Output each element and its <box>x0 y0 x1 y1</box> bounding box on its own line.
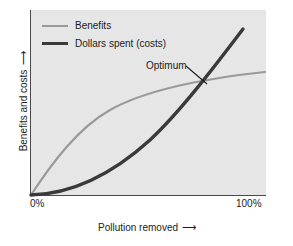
legend-swatch-benefits <box>42 25 68 27</box>
benefits-curve <box>31 72 265 195</box>
x-axis-tick-100: 100% <box>236 198 262 209</box>
legend-swatch-costs <box>42 42 68 45</box>
y-axis-title-text: Benefits and costs <box>18 70 29 152</box>
optimum-annotation-label: Optimum <box>146 60 187 71</box>
chart-container: Benefits Dollars spent (costs) Optimum 0… <box>0 0 293 246</box>
x-axis-arrow-icon: ⟶ <box>182 222 195 233</box>
chart-legend: Benefits Dollars spent (costs) <box>42 18 212 54</box>
x-axis-title-text: Pollution removed <box>98 222 178 233</box>
y-axis-title: Benefits and costs⟶ <box>18 17 29 187</box>
legend-label-costs: Dollars spent (costs) <box>75 38 166 49</box>
y-axis-arrow-icon: ⟶ <box>18 52 29 65</box>
legend-item-costs: Dollars spent (costs) <box>42 36 212 51</box>
x-axis-tick-0: 0% <box>30 198 44 209</box>
legend-label-benefits: Benefits <box>75 20 111 31</box>
legend-item-benefits: Benefits <box>42 18 212 33</box>
x-axis-title: Pollution removed⟶ <box>0 222 293 233</box>
